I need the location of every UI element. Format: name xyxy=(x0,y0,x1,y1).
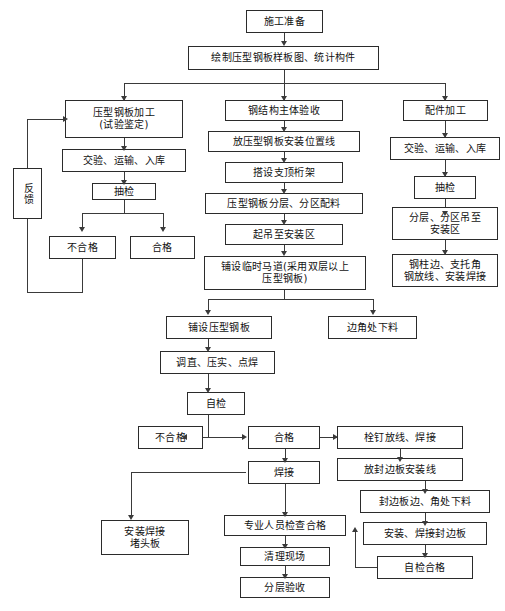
arrow-bus-left xyxy=(121,96,127,101)
node-left-unqualified[interactable]: 不合格 xyxy=(49,236,116,259)
node-left-sampling-inspection[interactable]: 抽检 xyxy=(92,183,156,200)
node-temporary-walkway[interactable]: 铺设临时马道(采用双层以上 压型钢板) xyxy=(204,256,366,290)
arrow-n03-n04 xyxy=(121,146,127,151)
node-mid-unqualified[interactable]: 不合格 xyxy=(138,426,203,449)
arrow-n28-n29 xyxy=(442,211,448,216)
flowchart-canvas: 施工准备 绘制压型钢板样板图、统计构件 压型钢板加工 (试验鉴定) 交验、运输、… xyxy=(0,0,505,611)
node-deck-plate-processing[interactable]: 压型钢板加工 (试验鉴定) xyxy=(65,100,183,138)
connector-n21-left xyxy=(131,472,246,473)
arrow-n09-n10 xyxy=(281,127,287,132)
arrow-n20-n21 xyxy=(282,458,288,463)
node-draw-template-count-members[interactable]: 绘制压型钢板样板图、统计构件 xyxy=(188,46,379,70)
connector-n21-n23 xyxy=(285,484,286,515)
connector-n14-split-bar xyxy=(208,299,373,300)
node-self-inspection-pass[interactable]: 自检合格 xyxy=(377,556,473,579)
node-self-inspection[interactable]: 自检 xyxy=(187,392,245,415)
arrow-n18-n20 xyxy=(242,434,247,440)
arrow-n23-n24 xyxy=(282,544,288,549)
connector-feedback-to-n03 xyxy=(27,119,67,120)
connector-n18-right xyxy=(208,437,245,438)
node-install-weld-end-plate[interactable]: 安装焊接 堵头板 xyxy=(101,520,189,555)
node-lay-deck-plate[interactable]: 铺设压型钢板 xyxy=(166,316,272,339)
arrow-n24-n25 xyxy=(282,574,288,579)
arrow-n29-n30 xyxy=(442,250,448,255)
node-hoist-to-install-zone[interactable]: 起吊至安装区 xyxy=(225,224,343,245)
arrow-n15-n17 xyxy=(205,347,211,352)
connector-n35-up xyxy=(355,530,356,567)
arrow-n18-n19 xyxy=(182,434,187,440)
connector-n21-left-down xyxy=(131,472,132,518)
arrow-n10-n11 xyxy=(281,158,287,163)
arrow-n26-n27 xyxy=(442,133,448,138)
node-column-edge-bracket-weld[interactable]: 钢柱边、支托角 钢放线、安装焊接 xyxy=(392,254,498,287)
node-left-qualified[interactable]: 合格 xyxy=(130,236,195,259)
arrow-bus-right xyxy=(442,96,448,101)
connector-n06-to-feedback xyxy=(27,292,83,293)
node-erect-support-truss[interactable]: 搭设支顶桁架 xyxy=(225,162,343,183)
connector-n14-split xyxy=(284,290,285,299)
arrow-n34-n35 xyxy=(422,553,428,558)
node-left-acceptance-transport-storage[interactable]: 交验、运输、入库 xyxy=(62,149,186,172)
connector-n18-split xyxy=(208,415,209,437)
connector-feedback-up xyxy=(27,219,28,292)
node-deck-layer-zone-batching[interactable]: 压型钢板分层、分区配料 xyxy=(205,193,363,214)
arrow-n35-n23 xyxy=(352,527,358,532)
node-clean-site[interactable]: 清理现场 xyxy=(240,547,330,566)
connector-n05-split-bar xyxy=(82,213,163,214)
arrow-n05-n07 xyxy=(160,227,166,232)
node-right-acceptance-transport-storage[interactable]: 交验、运输、入库 xyxy=(390,137,500,160)
node-professional-inspection-pass[interactable]: 专业人员检查合格 xyxy=(224,515,346,536)
node-stud-layout-welding[interactable]: 栓钉放线、焊接 xyxy=(337,426,463,449)
node-layer-acceptance[interactable]: 分层验收 xyxy=(240,577,330,598)
arrow-n27-n28 xyxy=(442,172,448,177)
node-corner-cutting[interactable]: 边角处下料 xyxy=(328,316,417,339)
arrow-n17-n18 xyxy=(205,388,211,393)
connector-n35-left xyxy=(355,567,377,568)
arrow-bus-mid xyxy=(281,96,287,101)
connector-n02-bus xyxy=(284,70,285,83)
arrow-n05-n06 xyxy=(79,227,85,232)
arrow-feedback-n03 xyxy=(63,116,68,122)
connector-feedback-top xyxy=(27,119,28,168)
connector-n06-down xyxy=(82,259,83,292)
arrow-n04-n05 xyxy=(121,180,127,185)
arrow-n31-n32 xyxy=(397,457,403,462)
node-straighten-compact-spotweld[interactable]: 调直、压实、点焊 xyxy=(160,351,275,374)
node-right-sampling-inspection[interactable]: 抽检 xyxy=(414,176,476,199)
node-feedback[interactable]: 反馈 xyxy=(13,168,42,219)
node-mid-qualified[interactable]: 合格 xyxy=(248,426,320,449)
arrow-n14-n15 xyxy=(205,310,211,315)
arrow-n32-n33 xyxy=(422,489,428,494)
arrow-n12-n13 xyxy=(281,220,287,225)
node-mark-deck-install-line[interactable]: 放压型钢板安装位置线 xyxy=(208,131,360,152)
arrow-n13-n14 xyxy=(281,251,287,256)
arrow-n01-n02 xyxy=(281,41,287,46)
node-welding[interactable]: 焊接 xyxy=(248,461,320,484)
arrow-n21-n23 xyxy=(282,512,288,517)
arrow-n14-n16 xyxy=(370,310,376,315)
node-construction-preparation[interactable]: 施工准备 xyxy=(246,10,323,33)
node-steel-structure-acceptance[interactable]: 钢结构主体验收 xyxy=(225,100,343,121)
arrow-n21-n22 xyxy=(128,515,134,520)
arrow-n11-n12 xyxy=(281,189,287,194)
connector-n05-split xyxy=(124,200,125,213)
arrow-n33-n34 xyxy=(422,521,428,526)
arrow-n20-n31 xyxy=(333,434,338,440)
node-accessory-processing[interactable]: 配件加工 xyxy=(403,100,488,121)
